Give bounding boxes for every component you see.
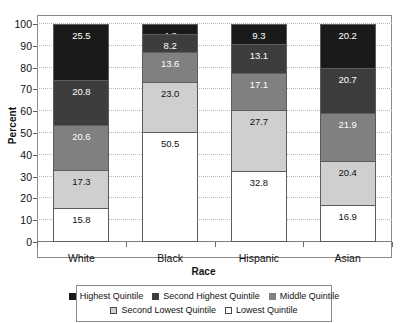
x-tick-mark <box>37 242 38 247</box>
legend-row: Highest QuintileSecond Highest QuintileM… <box>81 289 327 303</box>
bar-segment-value-label: 20.4 <box>338 162 357 178</box>
y-tick-label: 70 <box>20 83 32 95</box>
y-tick-label: 0 <box>26 236 32 248</box>
legend-swatch-icon <box>110 307 117 314</box>
y-tick-label: 10 <box>20 214 32 226</box>
stacked-bar-chart: Percent 0102030405060708090100 25.520.82… <box>0 0 407 323</box>
y-axis-title: Percent <box>7 91 18 161</box>
bar-segment[interactable]: 4.8 <box>142 24 198 34</box>
bar-segment[interactable]: 20.2 <box>320 24 376 68</box>
x-axis-label-asian: Asian <box>303 252 393 264</box>
legend-swatch-icon <box>69 293 76 300</box>
bar-segment-value-label: 20.2 <box>338 25 357 41</box>
y-tick-mark <box>33 155 37 156</box>
x-axis-label-hispanic: Hispanic <box>214 252 304 264</box>
y-tick-mark <box>33 177 37 178</box>
y-tick-mark <box>33 111 37 112</box>
bar-segment[interactable]: 9.3 <box>231 24 287 44</box>
bar-segment[interactable]: 13.1 <box>231 44 287 73</box>
plot-area: 0102030405060708090100 25.520.820.617.31… <box>37 24 392 242</box>
bar-segment-value-label: 8.2 <box>164 35 177 51</box>
legend-label: Lowest Quintile <box>236 305 298 315</box>
bar-segment[interactable]: 20.6 <box>53 125 109 170</box>
y-tick-label: 50 <box>20 127 32 139</box>
y-tick-label: 20 <box>20 192 32 204</box>
legend-item[interactable]: Middle Quintile <box>269 291 340 301</box>
legend-row: Second Lowest QuintileLowest Quintile <box>81 303 327 317</box>
legend-swatch-icon <box>152 293 159 300</box>
bar-segment[interactable]: 20.7 <box>320 68 376 113</box>
bar-segment[interactable]: 20.8 <box>53 80 109 125</box>
bar-segment[interactable]: 17.3 <box>53 170 109 208</box>
bar-hispanic[interactable]: 9.313.117.127.732.8 <box>231 24 287 242</box>
x-tick-mark <box>126 242 127 247</box>
y-tick-label: 80 <box>20 62 32 74</box>
bar-segment-value-label: 16.9 <box>338 206 357 222</box>
y-tick-label: 60 <box>20 105 32 117</box>
x-tick-mark <box>215 242 216 247</box>
bar-segment[interactable]: 27.7 <box>231 110 287 170</box>
bar-segment-value-label: 50.5 <box>161 133 180 149</box>
legend-swatch-icon <box>225 307 232 314</box>
legend-item[interactable]: Highest Quintile <box>69 291 144 301</box>
legend-label: Middle Quintile <box>280 291 340 301</box>
bar-segment-value-label: 9.3 <box>252 25 265 41</box>
legend-label: Second Highest Quintile <box>163 291 260 301</box>
bar-segment[interactable]: 25.5 <box>53 24 109 80</box>
x-tick-mark <box>303 242 304 247</box>
bar-segment[interactable]: 17.1 <box>231 73 287 110</box>
bar-segment-value-label: 4.8 <box>164 25 177 34</box>
legend-item[interactable]: Lowest Quintile <box>225 305 298 315</box>
legend-item[interactable]: Second Lowest Quintile <box>110 305 216 315</box>
bar-asian[interactable]: 20.220.721.920.416.9 <box>320 24 376 242</box>
x-axis-label-black: Black <box>125 252 215 264</box>
x-axis-label-white: White <box>36 252 126 264</box>
y-tick-label: 90 <box>20 40 32 52</box>
y-tick-label: 40 <box>20 149 32 161</box>
bar-segment-value-label: 17.3 <box>72 171 91 187</box>
legend: Highest QuintileSecond Highest QuintileM… <box>76 285 332 322</box>
bar-segment-value-label: 21.9 <box>338 114 357 130</box>
bar-white[interactable]: 25.520.820.617.315.8 <box>53 24 109 242</box>
bar-segment[interactable]: 21.9 <box>320 113 376 161</box>
legend-item[interactable]: Second Highest Quintile <box>152 291 260 301</box>
y-tick-mark <box>33 68 37 69</box>
legend-label: Highest Quintile <box>80 291 144 301</box>
bar-black[interactable]: 4.88.213.623.050.5 <box>142 24 198 242</box>
bar-segment[interactable]: 8.2 <box>142 34 198 52</box>
bar-segment-value-label: 25.5 <box>72 25 91 41</box>
bar-segment-value-label: 13.6 <box>161 53 180 69</box>
y-tick-mark <box>33 46 37 47</box>
bar-segment[interactable]: 20.4 <box>320 161 376 205</box>
bar-segment[interactable]: 50.5 <box>142 132 198 242</box>
y-tick-mark <box>33 89 37 90</box>
bar-segment-value-label: 27.7 <box>250 111 269 127</box>
legend-label: Second Lowest Quintile <box>121 305 216 315</box>
bar-segment[interactable]: 32.8 <box>231 171 287 243</box>
x-tick-mark <box>392 242 393 247</box>
y-tick-label: 100 <box>14 18 32 30</box>
y-tick-mark <box>33 24 37 25</box>
y-tick-mark <box>33 198 37 199</box>
y-tick-mark <box>33 133 37 134</box>
bar-segment-value-label: 23.0 <box>161 83 180 99</box>
bar-segment[interactable]: 16.9 <box>320 205 376 242</box>
x-axis-title: Race <box>0 266 407 277</box>
legend-swatch-icon <box>269 293 276 300</box>
bar-segment-value-label: 15.8 <box>72 209 91 225</box>
bar-segment-value-label: 13.1 <box>250 45 269 61</box>
bar-segment[interactable]: 23.0 <box>142 82 198 132</box>
bar-segment-value-label: 20.6 <box>72 126 91 142</box>
bar-segment-value-label: 17.1 <box>250 74 269 90</box>
y-tick-label: 30 <box>20 171 32 183</box>
bar-segment[interactable]: 15.8 <box>53 208 109 242</box>
bar-segment-value-label: 20.7 <box>338 69 357 85</box>
bar-segment[interactable]: 13.6 <box>142 52 198 82</box>
y-tick-mark <box>33 220 37 221</box>
bar-segment-value-label: 20.8 <box>72 81 91 97</box>
bar-segment-value-label: 32.8 <box>250 172 269 188</box>
